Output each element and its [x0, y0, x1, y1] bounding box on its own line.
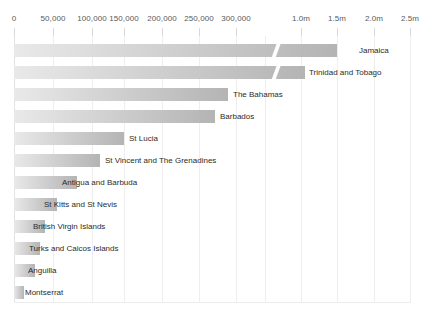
plot-bottom-rule [14, 302, 411, 303]
x-tick-label: 0 [12, 14, 17, 23]
x-tick-mark [236, 28, 237, 36]
x-tick-mark [199, 28, 200, 36]
plot-area: JamaicaTrinidad and TobagoThe BahamasBar… [0, 36, 425, 302]
x-tick-label: 200,000 [147, 14, 177, 23]
bar-label: Jamaica [359, 43, 389, 58]
bar-chart: 050,000100,000150,000200,000250,000300,0… [0, 0, 425, 324]
x-tick-mark [14, 28, 15, 36]
bar[interactable] [14, 88, 228, 101]
bar-label: Antigua and Barbuda [62, 175, 137, 190]
x-tick-label: 300,000 [221, 14, 251, 23]
bar[interactable] [14, 110, 215, 123]
bar-label: Turks and Caicos Islands [29, 241, 119, 256]
x-tick-mark [301, 28, 302, 36]
bar-label: St Vincent and The Grenadines [105, 153, 216, 168]
x-tick-mark [92, 28, 93, 36]
x-axis-tick-marks [0, 28, 425, 36]
bar-label: St Lucia [129, 131, 158, 146]
x-tick-mark [162, 28, 163, 36]
x-tick-mark [53, 28, 54, 36]
bar-label: Trinidad and Tobago [309, 65, 382, 80]
x-tick-label: 250,000 [184, 14, 214, 23]
x-tick-mark [337, 28, 338, 36]
bar[interactable] [14, 154, 100, 167]
x-tick-label: 1.0m [292, 14, 310, 23]
x-tick-label: 2.5m [401, 14, 419, 23]
x-tick-mark [124, 28, 125, 36]
x-tick-label: 50,000 [40, 14, 65, 23]
bar-label: Anguilla [28, 263, 56, 278]
bar[interactable] [14, 66, 305, 79]
x-tick-mark [410, 28, 411, 36]
x-tick-label: 1.5m [328, 14, 346, 23]
bar-label: The Bahamas [233, 87, 283, 102]
bar-label: British Virgin Islands [33, 219, 105, 234]
bar-label: Barbados [220, 109, 254, 124]
x-tick-mark [374, 28, 375, 36]
bar[interactable] [14, 286, 24, 299]
x-tick-label: 150,000 [109, 14, 139, 23]
x-tick-label: 100,000 [77, 14, 107, 23]
bar[interactable] [14, 132, 124, 145]
x-tick-label: 2.0m [365, 14, 383, 23]
bar-label: Montserrat [25, 285, 63, 300]
x-axis-tick-labels: 050,000100,000150,000200,000250,000300,0… [0, 14, 425, 26]
bar-rows: JamaicaTrinidad and TobagoThe BahamasBar… [0, 36, 425, 302]
bar[interactable] [14, 44, 337, 57]
bar-label: St Kitts and St Nevis [44, 197, 117, 212]
